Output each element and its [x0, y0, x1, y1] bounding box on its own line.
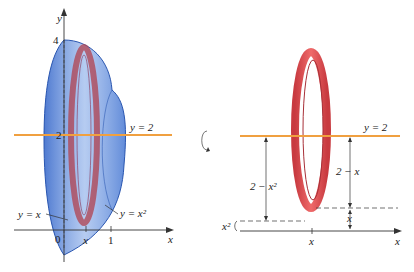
curve-label-y-equals-x-squared: y = x²: [119, 207, 147, 219]
washer-ring-right-edge: [303, 60, 323, 200]
y-axis-arrow-icon: [61, 8, 67, 16]
tick-label-x: x: [82, 234, 88, 246]
tick-label-x-right: x: [308, 235, 314, 247]
label-x-squared: x²: [221, 220, 231, 232]
tick-label-0: 0: [55, 233, 61, 245]
tick-label-4: 4: [53, 34, 59, 46]
diagram-canvas: y 4 2 0 x 1 x y = 2 y = x y = x²: [0, 0, 414, 272]
line-label-y-equals-2: y = 2: [129, 121, 154, 133]
y-axis-label: y: [56, 12, 62, 24]
x-axis-label-right: x: [394, 235, 400, 247]
label-2-minus-x: 2 − x: [336, 165, 359, 177]
label-x-gap: x: [346, 212, 352, 224]
left-figure: y 4 2 0 x 1 x y = 2 y = x y = x²: [14, 8, 174, 262]
label-2-minus-x-squared: 2 − x²: [250, 180, 277, 192]
tick-label-1: 1: [108, 234, 114, 246]
right-figure: y = 2 2 − x² 2 − x x² x x x: [221, 52, 402, 247]
tick-label-2: 2: [56, 129, 62, 141]
line-label-y-equals-2-right: y = 2: [363, 121, 388, 133]
rotation-arrow-icon: [202, 131, 210, 152]
brace-x-squared: [235, 221, 237, 231]
x-axis-label: x: [167, 233, 173, 245]
washer-ring-right: [295, 52, 327, 208]
curve-label-y-equals-x: y = x: [17, 208, 41, 220]
x-axis-right-arrow-icon: [394, 228, 402, 234]
